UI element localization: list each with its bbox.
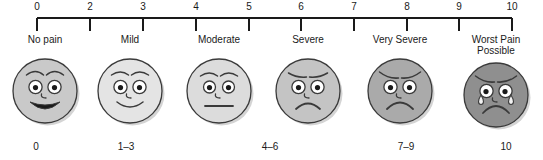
value-range-label-4: 7–9 bbox=[398, 141, 415, 152]
value-range-label-1: 0 bbox=[33, 141, 39, 152]
pupil-right-icon bbox=[315, 85, 320, 90]
pain-rating-scale: 02345678910 No painMildModerateSevereVer… bbox=[0, 0, 543, 160]
ruler-tick-label-10: 10 bbox=[506, 2, 517, 12]
ruler-tick-label-9: 9 bbox=[456, 2, 462, 12]
ruler-tick-label-6: 6 bbox=[298, 2, 304, 12]
face-label-3: Moderate bbox=[198, 34, 240, 45]
pupil-left-icon bbox=[388, 85, 393, 90]
pupil-right-icon bbox=[407, 85, 412, 90]
ruler-tick-label-3: 3 bbox=[140, 2, 146, 12]
face-happy-icon[interactable] bbox=[92, 54, 168, 130]
pupil-left-icon bbox=[483, 89, 488, 94]
face-very-happy-icon[interactable] bbox=[7, 54, 83, 130]
ruler-tick-label-8: 8 bbox=[404, 2, 410, 12]
value-range-labels: 01–34–67–910 bbox=[0, 141, 543, 160]
face-label-2: Mild bbox=[121, 34, 139, 45]
pupil-left-icon bbox=[118, 85, 123, 90]
face-label-6: Worst Pain Possible bbox=[463, 34, 529, 56]
ruler-tick-label-7: 7 bbox=[351, 2, 357, 12]
face-label-1: No pain bbox=[28, 34, 62, 45]
face-label-5: Very Severe bbox=[373, 34, 427, 45]
value-range-label-2: 1–3 bbox=[118, 141, 135, 152]
ruler-tick-label-4: 4 bbox=[193, 2, 199, 12]
face-very-sad-icon[interactable] bbox=[362, 54, 438, 130]
face-sad-icon[interactable] bbox=[270, 54, 346, 130]
ruler-tick-label-5: 5 bbox=[246, 2, 252, 12]
face-crying-icon[interactable] bbox=[458, 58, 534, 134]
numeric-rating-ruler: 02345678910 bbox=[0, 0, 543, 34]
value-range-label-5: 10 bbox=[500, 141, 511, 152]
ruler-tick-label-2: 2 bbox=[87, 2, 93, 12]
pupil-left-icon bbox=[33, 85, 38, 90]
face-neutral-icon[interactable] bbox=[181, 54, 257, 130]
ruler-tick-label-0: 0 bbox=[34, 2, 40, 12]
pupil-left-icon bbox=[207, 85, 212, 90]
face-label-4: Severe bbox=[292, 34, 324, 45]
pupil-left-icon bbox=[296, 85, 301, 90]
faces-row: No painMildModerateSevereVery SevereWors… bbox=[0, 34, 543, 144]
pupil-right-icon bbox=[52, 85, 57, 90]
value-range-label-3: 4–6 bbox=[262, 141, 279, 152]
pupil-right-icon bbox=[502, 89, 507, 94]
pupil-right-icon bbox=[137, 85, 142, 90]
pupil-right-icon bbox=[226, 85, 231, 90]
